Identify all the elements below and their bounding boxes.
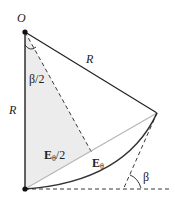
half-field-label: Eθ/2 — [44, 149, 65, 163]
half-field-main: E — [44, 148, 52, 162]
beta-angle-arc — [130, 175, 141, 188]
shaded-half-triangle — [25, 32, 91, 189]
radius-label-top: R — [86, 53, 93, 65]
origin-point — [22, 29, 27, 34]
field-main: E — [92, 156, 100, 170]
field-label: Eθ — [92, 157, 104, 171]
half-field-suffix: /2 — [56, 148, 65, 162]
half-angle-label: β/2 — [29, 73, 44, 85]
origin-label: O — [17, 12, 26, 24]
bottom-point — [22, 186, 27, 191]
beta-angle-label: β — [143, 171, 149, 183]
field-sub: θ — [100, 162, 104, 171]
radius-label-left: R — [9, 104, 16, 116]
